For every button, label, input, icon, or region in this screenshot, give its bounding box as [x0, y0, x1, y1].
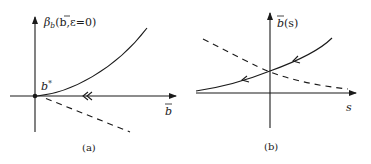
panel-b: b(s) s (b) — [196, 13, 356, 152]
fixed-point-dot — [33, 94, 38, 99]
panel-a-caption: (a) — [82, 142, 96, 153]
panel-a-y-label: βb(b,ε=0) — [43, 16, 96, 30]
panel-b-caption: (b) — [264, 141, 278, 152]
dashed-line-a — [46, 99, 130, 133]
dashed-curve-b — [203, 39, 348, 89]
beta-function-curve — [37, 28, 147, 96]
panel-b-x-label: s — [346, 101, 352, 114]
panel-a: βb(b,ε=0) b* b (a) — [10, 16, 176, 153]
panel-b-y-label: b(s) — [277, 17, 298, 30]
panel-a-x-label: b — [165, 105, 172, 118]
fixed-point-label: b* — [41, 79, 52, 93]
diagram-canvas: βb(b,ε=0) b* b (a) b(s) s (b) — [0, 0, 371, 164]
